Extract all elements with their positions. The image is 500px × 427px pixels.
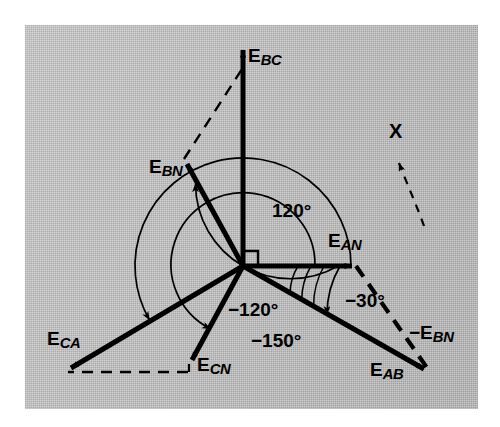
- angle-label-minus-30: −30°: [345, 291, 385, 310]
- x-marker-label: X: [389, 121, 402, 141]
- rotation-direction-arrow: [399, 163, 424, 226]
- angle-arc-minus-30-inner-c: [314, 266, 324, 307]
- angle-label-minus-150: −150°: [251, 331, 301, 350]
- dashed-vector-negative-ebn: [356, 266, 430, 372]
- angle-label-minus-120: −120°: [228, 300, 278, 319]
- figure-canvas: EBC EBN EAN ECN ECA EAB −EBN 120° −120° …: [0, 0, 500, 427]
- phasor-label-EAN: EAN: [328, 231, 361, 253]
- angle-arc-minus-30-inner-b: [302, 266, 311, 300]
- angle-arc-minus-30: [327, 266, 340, 315]
- phasor-label-ECA: ECA: [47, 329, 80, 351]
- phasor-label-EBC: EBC: [248, 46, 281, 68]
- phasor-label-ECN: ECN: [197, 355, 230, 377]
- phasor-label-EAB: EAB: [370, 360, 403, 382]
- angle-arc-minus-30-inner-a: [290, 266, 298, 294]
- dashed-construction-bn-to-bc: [184, 66, 244, 159]
- phasor-EBN: [187, 164, 243, 266]
- angle-label-120: 120°: [272, 201, 311, 220]
- phasor-label-EBN: EBN: [149, 157, 182, 179]
- phasor-label-negative-EBN: −EBN: [409, 323, 454, 345]
